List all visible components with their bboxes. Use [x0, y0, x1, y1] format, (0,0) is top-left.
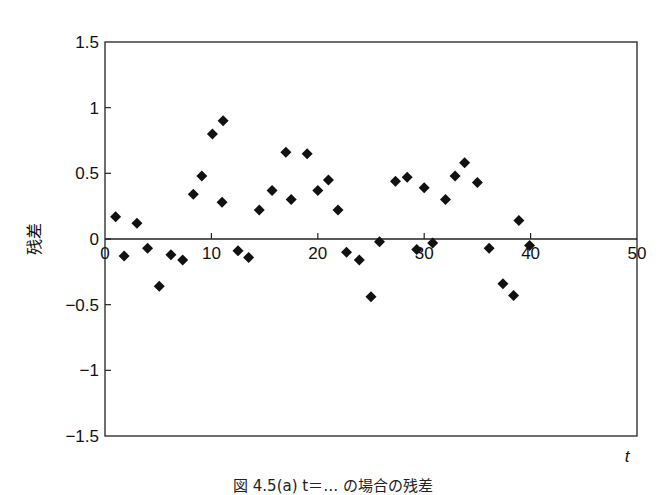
- diamond-marker: [188, 189, 199, 200]
- diamond-marker: [131, 218, 142, 229]
- diamond-marker: [312, 185, 323, 196]
- diamond-marker: [233, 245, 244, 256]
- diamond-marker: [390, 176, 401, 187]
- diamond-marker: [196, 170, 207, 181]
- diamond-marker: [267, 185, 278, 196]
- diamond-marker: [497, 278, 508, 289]
- y-tick-label: −1.5: [65, 427, 99, 446]
- data-points: [110, 115, 535, 302]
- y-tick-label: 0: [90, 230, 99, 249]
- figure-caption: 図 4.5(a) t＝… の場合の残差: [0, 474, 666, 495]
- diamond-marker: [323, 174, 334, 185]
- diamond-marker: [419, 182, 430, 193]
- diamond-marker: [119, 251, 130, 262]
- diamond-marker: [165, 249, 176, 260]
- x-tick-label: 20: [308, 244, 327, 263]
- y-tick-label: 1.5: [75, 33, 99, 52]
- diamond-marker: [354, 255, 365, 266]
- diamond-marker: [508, 290, 519, 301]
- diamond-marker: [217, 197, 228, 208]
- diamond-marker: [459, 157, 470, 168]
- diamond-marker: [402, 172, 413, 183]
- diamond-marker: [243, 252, 254, 263]
- diamond-marker: [450, 170, 461, 181]
- diamond-marker: [218, 115, 229, 126]
- y-tick-label: −0.5: [65, 296, 99, 315]
- diamond-marker: [142, 243, 153, 254]
- diamond-marker: [254, 205, 265, 216]
- y-tick-label: 0.5: [75, 164, 99, 183]
- diamond-marker: [374, 236, 385, 247]
- x-tick-label: 0: [100, 244, 109, 263]
- diamond-marker: [280, 147, 291, 158]
- diamond-marker: [366, 291, 377, 302]
- y-tick-label: −1: [80, 361, 99, 380]
- y-axis-ticks: 1.510.50−0.5−1−1.5: [65, 33, 111, 446]
- diamond-marker: [177, 255, 188, 266]
- x-axis-label: t: [625, 447, 631, 466]
- diamond-marker: [110, 211, 121, 222]
- y-axis-label: 残差: [26, 223, 43, 255]
- diamond-marker: [286, 194, 297, 205]
- diamond-marker: [341, 247, 352, 258]
- x-tick-label: 50: [628, 244, 647, 263]
- diamond-marker: [154, 281, 165, 292]
- diamond-marker: [472, 177, 483, 188]
- x-tick-label: 10: [202, 244, 221, 263]
- diamond-marker: [333, 205, 344, 216]
- diamond-marker: [440, 194, 451, 205]
- y-tick-label: 1: [90, 99, 99, 118]
- diamond-marker: [484, 243, 495, 254]
- diamond-marker: [302, 148, 313, 159]
- diamond-marker: [513, 215, 524, 226]
- diamond-marker: [207, 128, 218, 139]
